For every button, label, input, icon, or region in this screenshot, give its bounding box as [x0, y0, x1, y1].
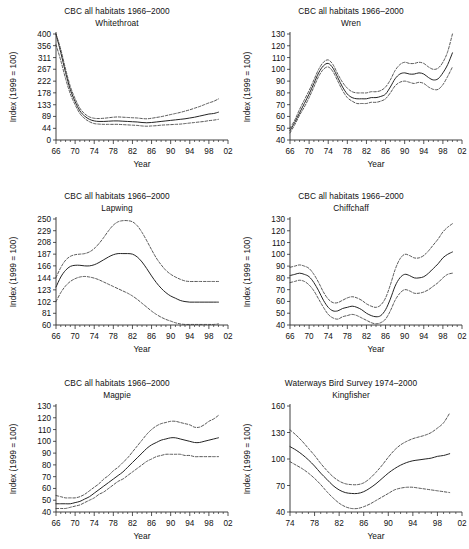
svg-text:110: 110	[38, 426, 51, 435]
svg-text:86: 86	[147, 332, 157, 341]
svg-text:100: 100	[37, 437, 51, 446]
svg-text:100: 100	[271, 250, 285, 259]
series-line-lower_confidence_limit	[56, 276, 218, 324]
svg-text:66: 66	[51, 332, 61, 341]
series-line-upper_confidence_limit	[290, 413, 450, 485]
svg-text:78: 78	[343, 147, 353, 156]
svg-text:78: 78	[109, 147, 119, 156]
series-line-lower_confidence_limit	[56, 45, 218, 127]
svg-text:60: 60	[276, 112, 286, 121]
plot-svg-chiffchaff: 4050607080901001101201306670747882869094…	[234, 185, 468, 368]
svg-text:356: 356	[37, 42, 51, 51]
svg-text:110: 110	[272, 54, 285, 63]
plot-area-kingfisher: 40701001301607478828690949802YearIndex (…	[234, 372, 468, 549]
svg-text:144: 144	[37, 274, 51, 283]
svg-text:0: 0	[46, 136, 51, 145]
svg-text:187: 187	[37, 250, 51, 259]
series-line-lower_confidence_limit	[56, 454, 218, 508]
svg-text:86: 86	[359, 519, 369, 528]
svg-text:66: 66	[51, 147, 61, 156]
svg-text:89: 89	[42, 112, 52, 121]
svg-text:110: 110	[272, 239, 285, 248]
svg-text:82: 82	[128, 147, 138, 156]
svg-text:82: 82	[128, 519, 138, 528]
svg-text:130: 130	[37, 402, 51, 411]
svg-text:208: 208	[37, 238, 51, 247]
plot-svg-kingfisher: 40701001301607478828690949802YearIndex (…	[234, 372, 468, 549]
svg-text:80: 80	[276, 89, 286, 98]
svg-text:120: 120	[271, 42, 285, 51]
svg-text:60: 60	[276, 297, 286, 306]
svg-text:102: 102	[37, 298, 51, 307]
series-line-index	[56, 254, 218, 303]
figure-multi-panel-bird-index-charts: CBC all habitats 1966–2000 Whitethroat 0…	[0, 0, 469, 549]
svg-text:66: 66	[285, 332, 295, 341]
svg-text:98: 98	[433, 519, 443, 528]
series-line-upper_confidence_limit	[56, 221, 218, 282]
plot-svg-whitethroat: 0448913317822226731135640066707478828690…	[0, 0, 234, 183]
svg-text:133: 133	[37, 101, 51, 110]
plot-area-chiffchaff: 4050607080901001101201306670747882869094…	[234, 185, 468, 368]
svg-text:78: 78	[310, 519, 320, 528]
svg-text:Year: Year	[134, 159, 151, 169]
svg-text:66: 66	[285, 147, 295, 156]
svg-text:74: 74	[285, 519, 295, 528]
svg-text:178: 178	[37, 89, 51, 98]
svg-text:94: 94	[419, 147, 429, 156]
svg-text:02: 02	[223, 519, 233, 528]
svg-text:Year: Year	[134, 344, 151, 354]
svg-text:70: 70	[276, 101, 286, 110]
svg-text:70: 70	[276, 482, 286, 491]
svg-text:94: 94	[408, 519, 418, 528]
svg-text:78: 78	[109, 332, 119, 341]
plot-svg-lapwing: 6081102123144166187208229250667074788286…	[0, 185, 234, 368]
svg-text:40: 40	[276, 321, 286, 330]
svg-text:02: 02	[457, 147, 467, 156]
plot-area-lapwing: 6081102123144166187208229250667074788286…	[0, 185, 234, 368]
svg-text:70: 70	[42, 473, 52, 482]
svg-text:130: 130	[271, 30, 285, 39]
svg-text:02: 02	[223, 332, 233, 341]
svg-text:90: 90	[400, 147, 410, 156]
svg-text:90: 90	[400, 332, 410, 341]
series-line-upper_confidence_limit	[290, 224, 452, 308]
svg-text:98: 98	[204, 519, 214, 528]
svg-text:02: 02	[223, 147, 233, 156]
svg-text:78: 78	[109, 519, 119, 528]
svg-text:74: 74	[90, 519, 100, 528]
svg-text:02: 02	[457, 519, 467, 528]
svg-text:Index (1999 = 100): Index (1999 = 100)	[242, 52, 252, 123]
svg-text:44: 44	[42, 124, 52, 133]
panel-chiffchaff: CBC all habitats 1966–2000 Chiffchaff 40…	[234, 185, 468, 368]
svg-text:86: 86	[381, 147, 391, 156]
svg-text:100: 100	[271, 455, 285, 464]
svg-text:130: 130	[271, 215, 285, 224]
svg-text:90: 90	[384, 519, 394, 528]
svg-text:94: 94	[419, 332, 429, 341]
svg-text:90: 90	[276, 77, 286, 86]
svg-text:94: 94	[185, 332, 195, 341]
svg-text:60: 60	[42, 321, 52, 330]
plot-svg-magpie: 4050607080901001101201306670747882869094…	[0, 372, 234, 549]
series-line-upper_confidence_limit	[290, 34, 452, 128]
svg-text:82: 82	[335, 519, 345, 528]
svg-text:222: 222	[37, 77, 51, 86]
panel-magpie: CBC all habitats 1966–2000 Magpie 405060…	[0, 372, 234, 549]
svg-text:90: 90	[276, 262, 286, 271]
panel-lapwing: CBC all habitats 1966–2000 Lapwing 60811…	[0, 185, 234, 368]
svg-text:311: 311	[38, 54, 51, 63]
svg-text:98: 98	[204, 147, 214, 156]
svg-text:50: 50	[42, 496, 52, 505]
svg-text:40: 40	[276, 508, 286, 517]
svg-text:229: 229	[37, 227, 51, 236]
svg-text:81: 81	[42, 309, 52, 318]
svg-text:50: 50	[276, 309, 286, 318]
panel-kingfisher: Waterways Bird Survey 1974–2000 Kingfish…	[234, 372, 468, 549]
plot-area-magpie: 4050607080901001101201306670747882869094…	[0, 372, 234, 549]
series-line-lower_confidence_limit	[290, 462, 450, 509]
svg-text:40: 40	[276, 136, 286, 145]
svg-text:82: 82	[362, 332, 372, 341]
svg-text:Index (1999 = 100): Index (1999 = 100)	[242, 424, 252, 495]
svg-text:120: 120	[271, 227, 285, 236]
svg-text:90: 90	[42, 449, 52, 458]
